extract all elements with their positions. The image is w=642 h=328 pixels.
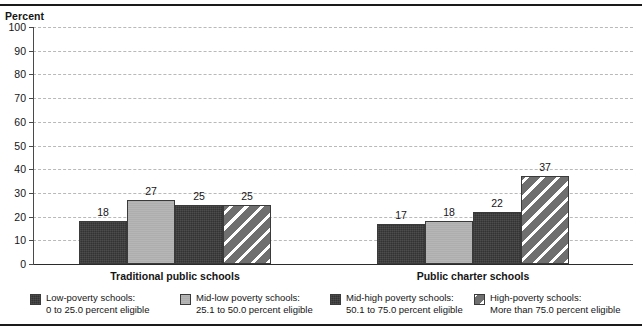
y-axis-tick bbox=[29, 27, 34, 28]
y-axis-tick-label: 100 bbox=[8, 22, 26, 33]
y-axis-tick-label: 70 bbox=[14, 93, 26, 104]
gridline bbox=[33, 27, 633, 28]
legend-label-line1: Mid-high poverty schools: bbox=[346, 292, 463, 304]
legend-swatch-icon bbox=[330, 294, 341, 305]
plot-area: 010203040506070809010018272525Traditiona… bbox=[33, 27, 633, 264]
bottom-rule bbox=[0, 324, 642, 326]
bar-value-label: 18 bbox=[97, 207, 109, 218]
y-axis-tick bbox=[29, 146, 34, 147]
bar-value-label: 25 bbox=[193, 190, 205, 201]
bar bbox=[79, 221, 127, 264]
y-axis-tick-label: 80 bbox=[14, 69, 26, 80]
legend-item: Low-poverty schools:0 to 25.0 percent el… bbox=[30, 292, 150, 315]
y-axis-tick-label: 50 bbox=[14, 140, 26, 151]
bar-value-label: 25 bbox=[241, 190, 253, 201]
group-label: Traditional public schools bbox=[110, 270, 240, 282]
gridline bbox=[33, 98, 633, 99]
gridline bbox=[33, 74, 633, 75]
legend-swatch-icon bbox=[30, 294, 41, 305]
legend-label-line2: More than 75.0 percent eligible bbox=[490, 304, 620, 316]
y-axis-tick-label: 60 bbox=[14, 117, 26, 128]
y-axis-tick-label: 90 bbox=[14, 45, 26, 56]
y-axis-tick bbox=[29, 98, 34, 99]
legend-label-line1: Low-poverty schools: bbox=[46, 292, 150, 304]
gridline bbox=[33, 122, 633, 123]
legend-label-line2: 0 to 25.0 percent eligible bbox=[46, 304, 150, 316]
y-axis-tick bbox=[29, 240, 34, 241]
bar-value-label: 17 bbox=[395, 209, 407, 220]
bar-value-label: 27 bbox=[145, 186, 157, 197]
plot-inner: 010203040506070809010018272525Traditiona… bbox=[33, 27, 633, 264]
gridline bbox=[33, 51, 633, 52]
legend-label: Low-poverty schools:0 to 25.0 percent el… bbox=[46, 292, 150, 315]
bar-value-label: 37 bbox=[539, 162, 551, 173]
chart-legend: Low-poverty schools:0 to 25.0 percent el… bbox=[0, 292, 642, 318]
legend-swatch-icon bbox=[180, 294, 191, 305]
y-axis-tick bbox=[29, 193, 34, 194]
legend-label-line2: 50.1 to 75.0 percent eligible bbox=[346, 304, 463, 316]
legend-label-line1: High-poverty schools: bbox=[490, 292, 620, 304]
bar bbox=[521, 176, 569, 264]
legend-swatch-icon bbox=[474, 294, 485, 305]
axis-baseline bbox=[33, 264, 633, 265]
legend-label: Mid-high poverty schools:50.1 to 75.0 pe… bbox=[346, 292, 463, 315]
y-axis-tick-label: 0 bbox=[20, 259, 26, 270]
legend-item: Mid-high poverty schools:50.1 to 75.0 pe… bbox=[330, 292, 463, 315]
y-axis-tick bbox=[29, 169, 34, 170]
y-axis-tick-label: 40 bbox=[14, 164, 26, 175]
y-axis-tick bbox=[29, 74, 34, 75]
top-rule bbox=[0, 4, 642, 6]
y-axis-tick-label: 20 bbox=[14, 211, 26, 222]
legend-label: High-poverty schools:More than 75.0 perc… bbox=[490, 292, 620, 315]
gridline bbox=[33, 146, 633, 147]
bar bbox=[175, 205, 223, 264]
bar bbox=[425, 221, 473, 264]
y-axis-tick bbox=[29, 264, 34, 265]
y-axis-tick bbox=[29, 122, 34, 123]
legend-label: Mid-low poverty schools:25.1 to 50.0 per… bbox=[196, 292, 313, 315]
group-label: Public charter schools bbox=[417, 270, 530, 282]
legend-label-line1: Mid-low poverty schools: bbox=[196, 292, 313, 304]
y-axis-tick-label: 10 bbox=[14, 235, 26, 246]
legend-item: High-poverty schools:More than 75.0 perc… bbox=[474, 292, 620, 315]
bar bbox=[223, 205, 271, 264]
y-axis-tick bbox=[29, 217, 34, 218]
y-axis-tick-label: 30 bbox=[14, 188, 26, 199]
bar bbox=[377, 224, 425, 264]
chart-figure: Percent 010203040506070809010018272525Tr… bbox=[0, 0, 642, 328]
bar-value-label: 22 bbox=[491, 197, 503, 208]
bar bbox=[127, 200, 175, 264]
legend-item: Mid-low poverty schools:25.1 to 50.0 per… bbox=[180, 292, 313, 315]
bar bbox=[473, 212, 521, 264]
y-axis-tick bbox=[29, 51, 34, 52]
bar-value-label: 18 bbox=[443, 207, 455, 218]
legend-label-line2: 25.1 to 50.0 percent eligible bbox=[196, 304, 313, 316]
